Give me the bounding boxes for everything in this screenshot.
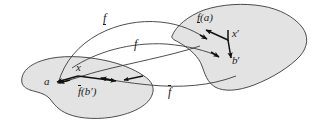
left-blob — [22, 57, 153, 119]
diagram-canvas — [0, 0, 318, 125]
right-blob — [172, 4, 307, 90]
figure-root: f f f f(a) x′ b′ a x f(b′) — [0, 0, 318, 125]
